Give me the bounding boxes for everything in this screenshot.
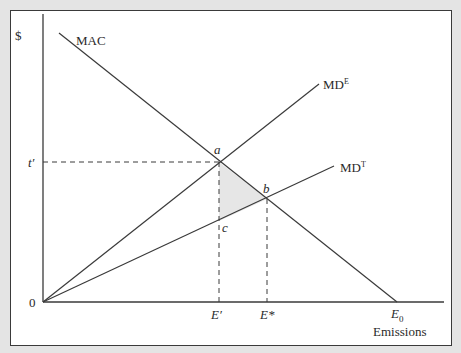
mde-label-main: MD [323, 77, 344, 92]
t-prime-label: t′ [28, 155, 35, 170]
e-zero-main: E [390, 306, 399, 321]
point-a-label: a [214, 142, 221, 157]
e-prime-label: E′ [210, 307, 222, 322]
shaded-triangle-abc [219, 162, 267, 221]
y-axis-label: $ [15, 28, 22, 43]
diagram-canvas: $ Emissions 0 MAC MDE MDT a b c t′ E′ E*… [0, 0, 461, 353]
x-axis-label: Emissions [373, 324, 426, 339]
e-star-label: E* [259, 307, 275, 322]
e-zero-label: E0 [390, 306, 404, 324]
mde-label: MDE [323, 77, 349, 92]
mdt-label-sup: T [361, 160, 366, 169]
mdt-label-main: MD [340, 160, 361, 175]
diagram-stage: $ Emissions 0 MAC MDE MDT a b c t′ E′ E*… [0, 0, 461, 353]
point-b-label: b [263, 181, 270, 196]
mac-label: MAC [76, 33, 106, 48]
e-zero-sub: 0 [399, 314, 404, 324]
mde-label-sup: E [344, 77, 349, 86]
mdt-label: MDT [340, 160, 366, 175]
origin-label: 0 [29, 295, 36, 310]
point-c-label: c [222, 220, 228, 235]
